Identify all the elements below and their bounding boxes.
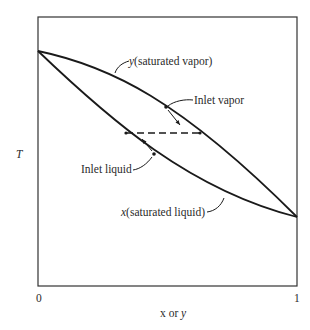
inlet-liquid-leader bbox=[133, 157, 152, 170]
saturated-liquid-curve bbox=[38, 51, 297, 217]
inlet-liquid-point bbox=[152, 152, 156, 156]
inlet-vapor-leader bbox=[168, 100, 193, 106]
x-axis-label: x or y bbox=[160, 307, 187, 320]
vapor-curve-label: y(saturated vapor) bbox=[128, 55, 213, 68]
liquid-label-leader bbox=[207, 198, 224, 212]
tie-line-liquid-point bbox=[124, 131, 127, 134]
tie-line-vapor-point bbox=[198, 131, 201, 134]
x-tick-0: 0 bbox=[36, 292, 42, 304]
liquid-curve-label: x(saturated liquid) bbox=[120, 206, 205, 219]
vapor-label-leader bbox=[115, 61, 129, 73]
y-axis-label: T bbox=[16, 148, 24, 160]
saturated-vapor-curve bbox=[38, 51, 297, 217]
inlet-vapor-point bbox=[164, 105, 168, 109]
inlet-liquid-label: Inlet liquid bbox=[81, 163, 132, 176]
phase-diagram: y(saturated vapor) Inlet vapor Inlet liq… bbox=[0, 0, 310, 330]
x-tick-1: 1 bbox=[294, 292, 300, 304]
inlet-vapor-label: Inlet vapor bbox=[194, 94, 244, 107]
